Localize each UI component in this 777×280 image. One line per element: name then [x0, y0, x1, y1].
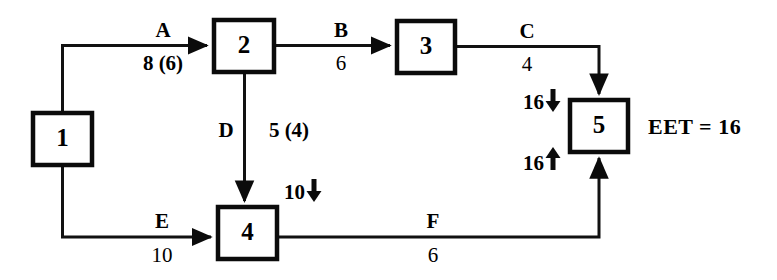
network-diagram-svg: 1 2 3 4 5 A 8 (6) B 6 C 4	[0, 0, 777, 280]
eet-marker-node-4: 10	[284, 179, 322, 204]
activity-e-name: E	[155, 209, 169, 233]
arrow-down-icon	[546, 89, 561, 112]
node-2[interactable]: 2	[214, 20, 274, 72]
activity-b-name: B	[334, 18, 348, 42]
eet-node-5-from-f-value: 16	[523, 151, 544, 175]
eet-marker-node-5-from-f: 16	[523, 147, 561, 175]
network-diagram-canvas: 1 2 3 4 5 A 8 (6) B 6 C 4	[0, 0, 777, 280]
label-activity-d: D 5 (4)	[218, 118, 309, 142]
activity-c-duration: 4	[522, 52, 533, 76]
activity-c-name: C	[519, 19, 534, 43]
arrow-down-icon	[307, 179, 322, 202]
activity-d-duration: 5 (4)	[269, 118, 309, 142]
node-4[interactable]: 4	[218, 207, 277, 259]
activity-e-duration: 10	[152, 243, 173, 267]
arrow-up-icon	[546, 147, 561, 170]
node-5-label: 5	[593, 111, 606, 138]
activity-f-duration: 6	[428, 243, 439, 267]
activity-f-name: F	[427, 209, 440, 233]
eet-node-5-from-c-value: 16	[523, 90, 544, 114]
eet-annotation: EET = 16	[648, 114, 741, 139]
activity-b-duration: 6	[336, 51, 347, 75]
node-5[interactable]: 5	[570, 100, 628, 152]
edge-activity-e	[63, 165, 212, 237]
eet-node-4-value: 10	[284, 180, 305, 204]
node-4-label: 4	[241, 218, 254, 245]
node-3-label: 3	[420, 32, 433, 59]
eet-result-text: EET = 16	[648, 114, 741, 139]
activity-d-name: D	[218, 118, 233, 142]
node-2-label: 2	[238, 31, 251, 58]
node-3[interactable]: 3	[397, 21, 455, 73]
eet-marker-node-5-from-c: 16	[523, 89, 561, 114]
edge-activity-a	[63, 46, 208, 114]
activity-a-name: A	[155, 18, 171, 42]
node-1-label: 1	[56, 124, 69, 151]
activity-a-duration: 8 (6)	[143, 51, 183, 75]
node-1[interactable]: 1	[33, 113, 92, 165]
